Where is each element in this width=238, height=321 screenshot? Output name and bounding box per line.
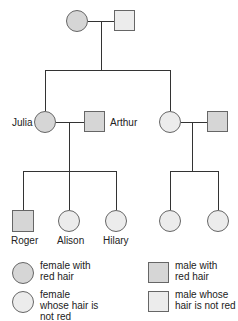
legend-male-not-red-symbol	[148, 291, 169, 312]
gen1-female-symbol	[66, 10, 88, 32]
label-arthur: Arthur	[110, 117, 137, 128]
right-child1-symbol	[159, 210, 181, 232]
legend-male-red-text: male with red hair	[175, 260, 227, 282]
right-sibling-bar	[170, 171, 219, 172]
label-hilary: Hilary	[103, 235, 129, 246]
roger-symbol	[12, 210, 34, 232]
julia-arthur-marriage-line	[56, 122, 84, 123]
gen1-descent-line	[101, 21, 102, 71]
right-child2-symbol	[207, 210, 229, 232]
alison-drop-line	[69, 171, 70, 210]
alison-symbol	[58, 210, 80, 232]
gen1-male-symbol	[114, 10, 135, 31]
legend-male-not-red-text: male whose hair is not red	[175, 289, 237, 311]
label-roger: Roger	[11, 235, 38, 246]
legend-female-red-text: female with red hair	[40, 260, 92, 282]
right-child1-drop-line	[170, 171, 171, 210]
hilary-symbol	[105, 210, 127, 232]
legend-female-not-red-text: female whose hair is not red	[40, 289, 100, 321]
label-julia: Julia	[12, 117, 33, 128]
legend-female-red-symbol	[12, 262, 34, 284]
right-female-symbol	[159, 111, 181, 133]
right-child2-drop-line	[218, 171, 219, 210]
legend-female-not-red-symbol	[12, 291, 34, 313]
arthur-symbol	[84, 111, 105, 132]
roger-drop-line	[23, 171, 24, 210]
julia-drop-line	[45, 70, 46, 111]
legend-male-red-symbol	[148, 262, 169, 283]
julia-symbol	[34, 111, 56, 133]
right-male-symbol	[207, 111, 228, 132]
right-couple-descent-line	[192, 122, 193, 172]
hilary-drop-line	[116, 171, 117, 210]
left-sibling-bar	[23, 171, 117, 172]
left-couple-descent-line	[69, 122, 70, 172]
label-alison: Alison	[57, 235, 84, 246]
gen1-sibling-bar	[45, 70, 171, 71]
right-couple-marriage-line	[181, 122, 207, 123]
right-female-drop-line	[170, 70, 171, 111]
